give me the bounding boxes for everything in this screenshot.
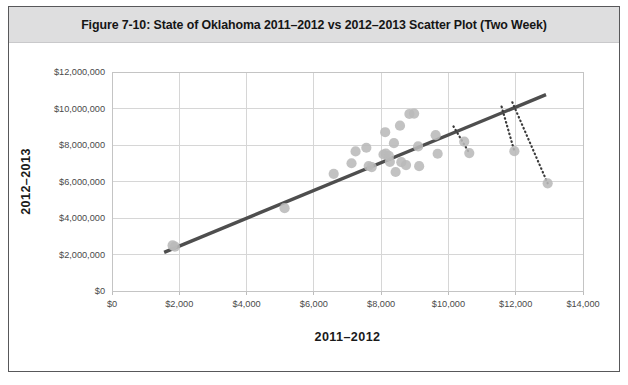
data-point [543,178,553,188]
data-point [509,146,519,156]
data-point [380,127,390,137]
tick-labels-layer: $0$2,000,000$4,000,000$6,000,000$8,000,0… [54,67,600,309]
data-point [361,143,371,153]
data-point [279,203,289,213]
trend-line [164,95,546,253]
data-point [329,169,339,179]
data-point [395,121,405,131]
data-point [350,146,360,156]
data-point [459,137,469,147]
data-point [389,138,399,148]
x-tick-label: $2,000 [165,299,193,309]
x-tick-label: $4,000 [233,299,261,309]
y-tick-label: $12,000,000 [54,67,105,77]
chart-plot-area: $0$2,000,000$4,000,000$6,000,000$8,000,0… [8,43,620,372]
y-tick-label: $8,000,000 [59,140,105,150]
figure-container: Figure 7-10: State of Oklahoma 2011–2012… [0,0,628,385]
x-tick-label: $12,000 [499,299,532,309]
data-point [414,161,424,171]
data-point [346,158,356,168]
scatter-chart-svg: $0$2,000,000$4,000,000$6,000,000$8,000,0… [8,43,620,372]
x-tick-label: $8,000 [367,299,395,309]
x-tick-label: $0 [107,299,117,309]
y-tick-label: $4,000,000 [59,213,105,223]
x-tick-label: $14,000 [566,299,599,309]
grid-layer [112,72,583,295]
x-tick-label: $6,000 [300,299,328,309]
y-axis-title: 2012–2013 [19,148,33,215]
x-tick-label: $10,000 [432,299,465,309]
data-point [170,242,180,252]
x-axis-title: 2011–2012 [315,330,381,344]
y-tick-label: $2,000,000 [59,250,105,260]
data-point [391,167,401,177]
data-point [464,148,474,158]
data-point [409,109,419,119]
trendline-layer [164,95,546,253]
page-title: Figure 7-10: State of Oklahoma 2011–2012… [9,7,619,43]
y-tick-label: $10,000,000 [54,104,105,114]
data-point [367,162,377,172]
outlier-leader-line [512,102,547,183]
y-tick-label: $0 [95,286,105,296]
data-point [401,160,411,170]
data-point [433,149,443,159]
data-point [413,141,423,151]
data-points-layer [167,109,552,252]
y-tick-label: $6,000,000 [59,177,105,187]
data-point [385,157,395,167]
figure-title-band: Figure 7-10: State of Oklahoma 2011–2012… [9,7,619,43]
data-point [431,130,441,140]
